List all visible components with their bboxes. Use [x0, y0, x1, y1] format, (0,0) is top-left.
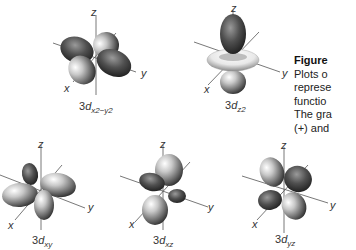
- orbital-dz2-diagram: [180, 0, 295, 115]
- orbital-label: 3dx2−y2: [79, 101, 113, 112]
- caption-line: The gra: [294, 108, 356, 122]
- orbital-panel-dxz: z y x 3dxz: [110, 130, 230, 250]
- orbital-panel-dxy: z y x 3dxy: [0, 130, 120, 250]
- orbital-dxy-diagram: [0, 130, 120, 250]
- caption-title: Figure: [294, 54, 356, 68]
- orbital-dx2y2-diagram: [0, 0, 180, 115]
- orbital-panel-dz2: z y x 3dz2: [180, 0, 295, 115]
- axis-label-y: y: [88, 202, 94, 213]
- orbital-label: 3dxy: [32, 235, 52, 246]
- figure-caption: Figure Plots o represe functio The gra (…: [294, 54, 356, 136]
- axis-label-x: x: [8, 220, 14, 231]
- axis-label-y: y: [282, 68, 288, 79]
- axis-label-y: y: [141, 68, 147, 79]
- axis-label-z: z: [91, 7, 97, 18]
- axis-label-x: x: [252, 219, 258, 230]
- orbital-label: 3dxz: [153, 235, 173, 246]
- caption-line: functio: [294, 95, 356, 109]
- axis-label-x: x: [129, 219, 135, 230]
- orbital-panel-dx2y2: z y x 3dx2−y2: [0, 0, 180, 115]
- axis-label-z: z: [231, 3, 237, 14]
- caption-line: Plots o: [294, 68, 356, 82]
- axis-label-x: x: [64, 83, 70, 94]
- axis-label-y: y: [330, 200, 336, 211]
- orbital-dyz-diagram: [230, 130, 356, 250]
- axis-label-z: z: [281, 140, 287, 151]
- axis-label-z: z: [160, 139, 166, 150]
- orbital-label: 3dyz: [275, 234, 295, 245]
- orbital-panel-dyz: z y x 3dyz: [230, 130, 356, 250]
- axis-label-x: x: [204, 84, 210, 95]
- orbital-dxz-diagram: [110, 130, 230, 250]
- axis-label-y: y: [208, 202, 214, 213]
- caption-line: represe: [294, 81, 356, 95]
- orbital-label: 3dz2: [225, 100, 246, 111]
- axis-label-z: z: [38, 139, 44, 150]
